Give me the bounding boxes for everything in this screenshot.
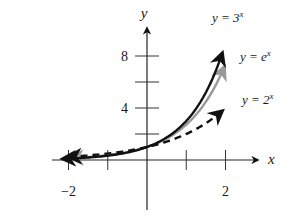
labels: −2248xyy = 3xy = exy = 2x bbox=[61, 5, 275, 199]
curve-3-pow-x bbox=[63, 53, 223, 159]
series-label-base: y = e bbox=[238, 49, 267, 64]
y-tick-label: 4 bbox=[121, 101, 128, 116]
x-tick-label: 2 bbox=[222, 184, 229, 199]
x-axis-label: x bbox=[267, 151, 275, 167]
series-label-exponent: x bbox=[239, 9, 244, 19]
x-tick-label: −2 bbox=[61, 184, 76, 199]
series-label: y = ex bbox=[238, 48, 271, 64]
plot-area: −2248xyy = 3xy = exy = 2x bbox=[0, 0, 292, 224]
curves bbox=[63, 53, 225, 159]
series-label: y = 3x bbox=[210, 9, 244, 25]
series-label-exponent: x bbox=[266, 48, 271, 58]
y-axis-label: y bbox=[139, 5, 148, 21]
series-label-base: y = 2 bbox=[240, 92, 270, 107]
series-label: y = 2x bbox=[240, 91, 274, 107]
axes bbox=[52, 28, 258, 210]
series-label-exponent: x bbox=[269, 91, 274, 101]
y-tick-label: 8 bbox=[121, 49, 128, 64]
exponential-functions-chart: −2248xyy = 3xy = exy = 2x bbox=[0, 0, 292, 224]
series-label-base: y = 3 bbox=[210, 10, 240, 25]
